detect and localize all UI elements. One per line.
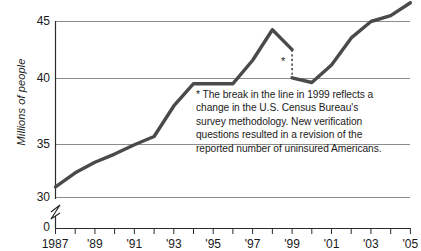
annotation-line-2: change in the U.S. Census Bureau's: [196, 101, 410, 114]
x-tick-2001: '01: [324, 238, 340, 250]
x-tick-1991: '91: [126, 238, 142, 250]
break-asterisk-marker: *: [281, 55, 286, 67]
x-tick-1999: '99: [284, 238, 300, 250]
x-tick-1987: 1987: [42, 238, 69, 250]
data-line-post-1999: [292, 3, 410, 83]
annotation-line-5: reported number of uninsured Americans.: [196, 142, 410, 155]
x-tick-1997: '97: [245, 238, 261, 250]
x-tick-1995: '95: [205, 238, 221, 250]
chart-annotation: * The break in the line in 1999 reflects…: [196, 88, 410, 155]
x-tick-2003: '03: [363, 238, 379, 250]
x-tick-1989: '89: [87, 238, 103, 250]
x-tick-2005: '05: [403, 238, 419, 250]
annotation-line-3: survey methodology. New verification: [196, 115, 410, 128]
annotation-line-4: questions resulted in a revision of the: [196, 128, 410, 141]
chart-canvas: Millions of people 45 40 35 30 0: [0, 0, 421, 251]
annotation-line-1: * The break in the line in 1999 reflects…: [196, 88, 410, 101]
x-tick-1993: '93: [166, 238, 182, 250]
